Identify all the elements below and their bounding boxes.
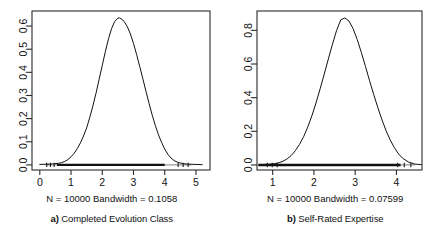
density-curve [260,18,421,165]
rug-plot [258,163,415,167]
plot-box [257,11,422,170]
panel-a-caption-lead: a) [51,213,59,224]
panel-b-subtitle: N = 10000 Bandwidth = 0.07599 [224,193,447,204]
density-curve [40,18,202,165]
y-tick-label: 0.1 [17,134,29,149]
y-tick-label: 0.2 [242,124,254,139]
x-tick-label: 0 [37,176,43,188]
x-tick-label: 4 [162,176,168,188]
y-tick-label: 0.5 [17,42,29,57]
rug-plot [46,163,191,167]
panel-a-caption-text: Completed Evolution Class [59,213,173,224]
y-tick-label: 0.8 [242,23,254,38]
x-tick-label: 3 [352,176,358,188]
y-tick-label: 0.0 [242,158,254,173]
y-tick-label: 0.3 [17,88,29,103]
density-plot-figure: 0123450.00.10.20.30.40.50.6 N = 10000 Ba… [0,0,447,241]
panel-b-caption-lead: b) [287,213,296,224]
y-tick-label: 0.6 [17,19,29,34]
x-tick-label: 1 [269,176,275,188]
panel-b-plot: 12340.00.20.40.60.8 [224,0,447,241]
panel-a-caption: a) Completed Evolution Class [0,213,224,224]
panel-b-caption-text: Self-Rated Expertise [296,213,384,224]
panel-b-caption: b) Self-Rated Expertise [224,213,447,224]
y-tick-label: 0.4 [242,90,254,105]
x-tick-label: 2 [99,176,105,188]
plot-box [32,11,210,170]
x-tick-label: 4 [393,176,399,188]
x-tick-label: 5 [193,176,199,188]
x-tick-label: 3 [131,176,137,188]
panel-a-subtitle: N = 10000 Bandwidth = 0.1058 [0,193,224,204]
y-tick-label: 0.0 [17,157,29,172]
x-tick-label: 1 [68,176,74,188]
panel-a-plot: 0123450.00.10.20.30.40.50.6 [0,0,223,241]
x-tick-label: 2 [311,176,317,188]
panel-a: 0123450.00.10.20.30.40.50.6 N = 10000 Ba… [0,0,224,241]
panel-b: 12340.00.20.40.60.8 N = 10000 Bandwidth … [224,0,447,241]
y-tick-label: 0.4 [17,65,29,80]
y-tick-label: 0.6 [242,57,254,72]
y-tick-label: 0.2 [17,111,29,126]
